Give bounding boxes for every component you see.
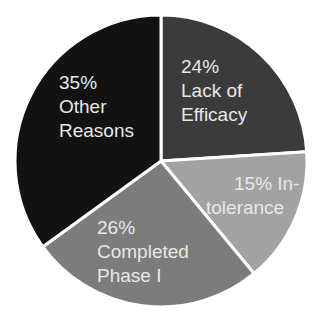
label-other-reasons-line-3: Reasons <box>59 119 134 143</box>
label-completed-phase-i: 26% Completed Phase I <box>97 216 189 288</box>
label-lack-of-efficacy-line-1: 24% <box>181 55 247 79</box>
label-intolerance-line-2: tolerance <box>206 196 299 220</box>
label-completed-phase-i-line-3: Phase I <box>97 264 189 288</box>
label-lack-of-efficacy-line-3: Efficacy <box>181 103 247 127</box>
label-other-reasons-line-1: 35% <box>59 71 134 95</box>
label-intolerance: 15% In- tolerance <box>206 172 299 220</box>
label-completed-phase-i-line-2: Completed <box>97 240 189 264</box>
label-other-reasons: 35% Other Reasons <box>59 71 134 143</box>
label-completed-phase-i-line-1: 26% <box>97 216 189 240</box>
label-lack-of-efficacy: 24% Lack of Efficacy <box>181 55 247 127</box>
label-intolerance-line-1: 15% In- <box>206 172 299 196</box>
label-other-reasons-line-2: Other <box>59 95 134 119</box>
label-lack-of-efficacy-line-2: Lack of <box>181 79 247 103</box>
